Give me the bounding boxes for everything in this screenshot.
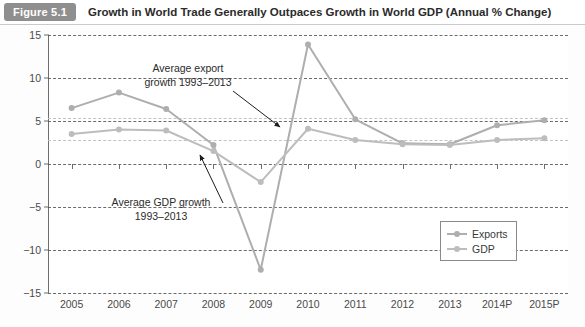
legend-label: GDP bbox=[472, 243, 495, 255]
x-axis-tick-label: 2008 bbox=[202, 298, 225, 310]
legend-item-exports[interactable]: Exports bbox=[447, 226, 508, 241]
plot-region: 151050−5−10−15 2005200620072008200920102… bbox=[48, 35, 568, 293]
y-axis-tick-label: 0 bbox=[35, 158, 41, 170]
figure-container: Figure 5.1 Growth in World Trade General… bbox=[0, 0, 585, 327]
gridline bbox=[48, 293, 568, 294]
x-axis-tick-label: 2006 bbox=[107, 298, 130, 310]
y-axis-tick-label: 5 bbox=[35, 115, 41, 127]
x-axis-tick-label: 2005 bbox=[60, 298, 83, 310]
y-axis-tick-label: 15 bbox=[29, 29, 41, 41]
y-axis-tick-label: −15 bbox=[23, 287, 41, 299]
export-annotation-arrow bbox=[233, 91, 280, 127]
legend-label: Exports bbox=[472, 228, 508, 240]
y-axis-tick-label: −5 bbox=[29, 201, 41, 213]
x-axis-tick-label: 2011 bbox=[344, 298, 367, 310]
x-axis-tick-label: 2015P bbox=[529, 298, 559, 310]
legend-item-gdp[interactable]: GDP bbox=[447, 241, 508, 256]
x-axis-tick-label: 2014P bbox=[482, 298, 512, 310]
legend-swatch-icon bbox=[447, 244, 467, 254]
x-axis-tick-label: 2007 bbox=[154, 298, 177, 310]
x-axis-tick-label: 2009 bbox=[249, 298, 272, 310]
figure-number-badge: Figure 5.1 bbox=[4, 3, 76, 21]
header-divider bbox=[0, 24, 585, 25]
chart-legend: ExportsGDP bbox=[440, 221, 517, 261]
y-axis-tick-label: 10 bbox=[29, 72, 41, 84]
x-axis-tick-label: 2012 bbox=[391, 298, 414, 310]
y-axis-tick-label: −10 bbox=[23, 244, 41, 256]
chart-area: 151050−5−10−15 2005200620072008200920102… bbox=[0, 26, 585, 327]
legend-swatch-icon bbox=[447, 229, 467, 239]
x-axis-tick-label: 2013 bbox=[438, 298, 461, 310]
gdp-annotation-arrow bbox=[200, 155, 223, 203]
x-axis-tick-label: 2010 bbox=[296, 298, 319, 310]
figure-header: Figure 5.1 Growth in World Trade General… bbox=[0, 0, 585, 24]
figure-title: Growth in World Trade Generally Outpaces… bbox=[88, 6, 551, 18]
